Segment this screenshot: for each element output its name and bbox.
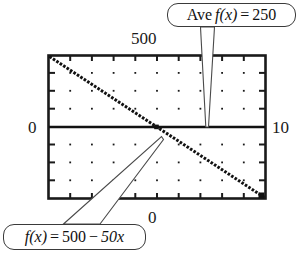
endpoint-marker <box>259 193 265 199</box>
ave-callout-box: Avef(x)=250 <box>167 3 296 27</box>
axis-label-right: 10 <box>272 119 289 136</box>
figure-container: 500 0 10 0 Avef(x)=250 f(x)=500−50x <box>0 0 300 273</box>
function-callout-box: f(x)=500−50x <box>3 224 146 250</box>
function-callout-slope-term: 50x <box>101 228 124 246</box>
function-callout-intercept: 500 <box>62 228 86 246</box>
intersection-marker <box>154 125 159 130</box>
function-callout-minus: − <box>89 228 98 246</box>
function-callout-func: f(x) <box>25 228 47 246</box>
function-callout-equals: = <box>50 228 59 246</box>
ave-callout-equals: = <box>240 6 249 24</box>
ave-callout-prefix: Ave <box>187 6 212 24</box>
axis-label-bottom: 0 <box>148 209 157 226</box>
ave-callout-func: f(x) <box>215 6 237 24</box>
axis-label-left: 0 <box>28 119 37 136</box>
ave-callout-value: 250 <box>252 6 276 24</box>
axis-label-top: 500 <box>131 30 157 47</box>
